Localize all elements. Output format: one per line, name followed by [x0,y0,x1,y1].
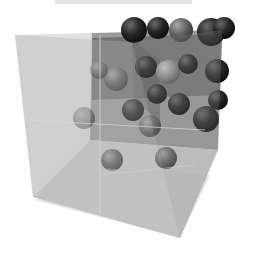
atom-sphere [121,17,147,43]
atom-sphere [147,17,169,39]
crystal-lattice-diagram [0,0,262,263]
cube-front-faces [15,30,222,238]
